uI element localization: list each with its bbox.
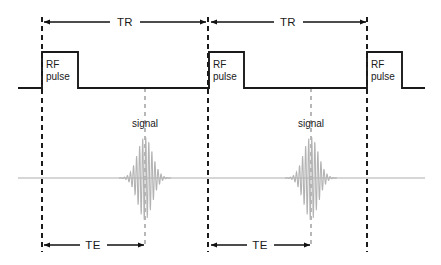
rf-pulse-label-2: RF pulse <box>213 59 237 82</box>
signal1-label: signal <box>132 118 158 129</box>
tr-interval-1: TR <box>44 16 206 28</box>
echo-waveform-2 <box>285 137 337 219</box>
pulse-sequence-canvas: TR TR RF pulse RF pulse RF pulse <box>0 0 441 265</box>
rf-channel-trace <box>18 52 425 88</box>
rf-pulse-label-1: RF pulse <box>46 59 70 82</box>
te2-label: TE <box>252 239 267 251</box>
tr2-label: TR <box>280 16 296 28</box>
rf-waveform-path <box>18 52 425 88</box>
echo1-path <box>119 137 171 219</box>
rf2-label-line2: pulse <box>213 71 237 82</box>
pulse-sequence-diagram: TR TR RF pulse RF pulse RF pulse <box>0 0 441 265</box>
rf-pulse-label-3: RF pulse <box>371 59 395 82</box>
signal2-label: signal <box>298 118 324 129</box>
te-interval-1: TE <box>44 239 144 251</box>
rf1-label-line1: RF <box>46 59 59 70</box>
tr-interval-2: TR <box>211 16 366 28</box>
rf1-label-line2: pulse <box>46 71 70 82</box>
te1-label: TE <box>85 239 100 251</box>
rf3-label-line1: RF <box>371 59 384 70</box>
rf2-label-line1: RF <box>213 59 226 70</box>
rf3-label-line2: pulse <box>371 71 395 82</box>
echo-waveform-1 <box>119 137 171 219</box>
te-interval-2: TE <box>211 239 310 251</box>
tr1-label: TR <box>117 16 133 28</box>
echo2-path <box>285 137 337 219</box>
dashed-marker-lines <box>42 17 367 252</box>
